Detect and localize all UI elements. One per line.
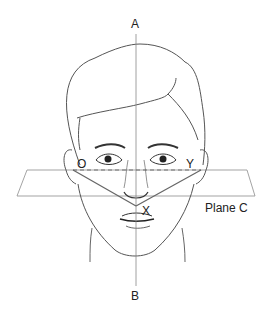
lip-line [120, 219, 154, 221]
eyebrow-left [95, 144, 125, 148]
face-plane-diagram: A B O Y X Plane C [0, 0, 266, 313]
hair-side [168, 94, 198, 140]
label-b: B [131, 289, 139, 303]
temple-left [79, 118, 81, 150]
neck-right [182, 228, 185, 262]
label-y: Y [186, 157, 194, 171]
lip-bottom [126, 226, 150, 228]
label-x: X [142, 204, 150, 218]
label-a: A [131, 17, 139, 31]
label-plane-c: Plane C [205, 201, 248, 215]
hairline [77, 78, 176, 118]
ear-right [196, 150, 208, 184]
nose-bridge-left [124, 160, 128, 188]
line-o-x [73, 170, 136, 206]
ear-left [64, 150, 76, 184]
label-o: O [77, 157, 86, 171]
pupil-left [105, 156, 112, 163]
pupil-right [160, 156, 167, 163]
nose-bridge-right [144, 160, 148, 188]
neck-left [90, 228, 92, 262]
eyebrow-right [148, 144, 178, 148]
